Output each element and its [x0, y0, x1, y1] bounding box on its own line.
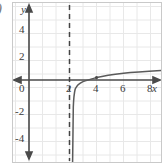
- y-axis: [26, 5, 32, 159]
- axes-and-curve: [13, 3, 161, 162]
- graph-figure: ): [0, 0, 164, 165]
- x-tick-label-2: 2: [66, 83, 72, 94]
- x-tick-label-4: 4: [93, 83, 99, 94]
- y-tick-label-minus-2: -2: [15, 106, 24, 117]
- y-tick-label-0: 0: [19, 83, 25, 94]
- y-tick-label-2: 2: [19, 51, 25, 62]
- y-tick-label-minus-4: -4: [15, 133, 24, 144]
- figure-part-label: ): [0, 1, 2, 16]
- y-tick-label-4: 4: [19, 24, 25, 35]
- y-axis-label: y: [21, 4, 26, 15]
- plot-area: 2 4 6 8 4 2 0 -2 -4 x y: [12, 2, 162, 163]
- x-intercept-marker: [95, 76, 98, 79]
- x-axis-label: x: [152, 83, 157, 94]
- x-tick-label-6: 6: [120, 83, 126, 94]
